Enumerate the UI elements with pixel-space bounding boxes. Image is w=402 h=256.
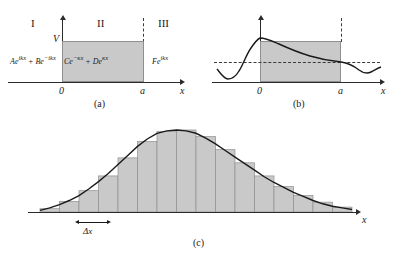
histogram-bar [177, 130, 197, 212]
histogram-bar [235, 163, 255, 212]
panel-c-x-axis-arrowhead [356, 209, 361, 215]
wf1-exp2: −ikx [44, 54, 56, 61]
wf1-base2: + Be [26, 57, 44, 66]
panel-b-wavefunction-curve [217, 38, 381, 79]
panel-c-bars [40, 130, 352, 212]
panel-c-caption: (c) [193, 238, 204, 248]
histogram-bar [138, 141, 158, 212]
panel-a-region-I-label: I [31, 18, 35, 29]
panel-a-region-III-label: III [158, 18, 169, 29]
panel-a-region-III-wavefunction: Feikx [152, 55, 168, 66]
histogram-bar [216, 150, 236, 212]
panel-a-region-II-wavefunction: Ce−κx + Deκx [64, 55, 108, 66]
panel-a-x-axis-label: x [180, 86, 184, 96]
panel-a-tick-0: 0 [59, 86, 64, 96]
wf2-base: Ce [64, 57, 73, 66]
panel-c-histogram-svg [0, 122, 402, 232]
histogram-bar [196, 137, 216, 212]
histogram-bar [99, 176, 119, 212]
panel-a-y-axis-arrowhead [60, 15, 66, 20]
panel-b-wavefunction-curve-svg [200, 0, 402, 112]
panel-b-tick-0: 0 [257, 86, 262, 96]
panel-a-potential-label: V [53, 34, 59, 44]
panel-a-region-II-label: II [97, 18, 104, 29]
panel-a-tick-a: a [140, 86, 145, 96]
panel-c-probability-histogram: x Δx (c) [0, 112, 402, 256]
panel-c-x-axis-label: x [362, 215, 366, 225]
panel-b-tick-a: a [338, 86, 343, 96]
wf3-exp: ikx [160, 54, 168, 61]
panel-b-caption: (b) [293, 99, 305, 109]
histogram-bar [294, 196, 314, 212]
panel-a-x-axis [8, 82, 180, 83]
wf2-exp: −κx [73, 54, 83, 61]
panel-b-x-axis-label: x [381, 86, 385, 96]
panel-c-bin-width-arrow-right [107, 220, 111, 224]
wf2-exp2: κx [102, 54, 108, 61]
histogram-bar [157, 132, 177, 212]
wf1-exp: ikx [18, 54, 26, 61]
panel-a-caption: (a) [94, 99, 105, 109]
panel-a-potential-barrier: I II III V Aeikx + Be−ikx Ce−κx + Deκx F… [0, 0, 200, 112]
histogram-bar [118, 158, 138, 212]
panel-c-x-axis [28, 212, 356, 213]
panel-a-region-I-wavefunction: Aeikx + Be−ikx [10, 55, 56, 66]
panel-c-bin-width-arrow-left [75, 220, 79, 224]
wf2-base2: + De [83, 57, 102, 66]
panel-c-bin-width-label: Δx [83, 226, 92, 236]
panel-b-wavefunction-plot: 0 a x (b) [200, 0, 402, 112]
panel-a-barrier-right-edge-dashed [143, 18, 144, 42]
panel-c-bin-width-bar [78, 222, 108, 223]
